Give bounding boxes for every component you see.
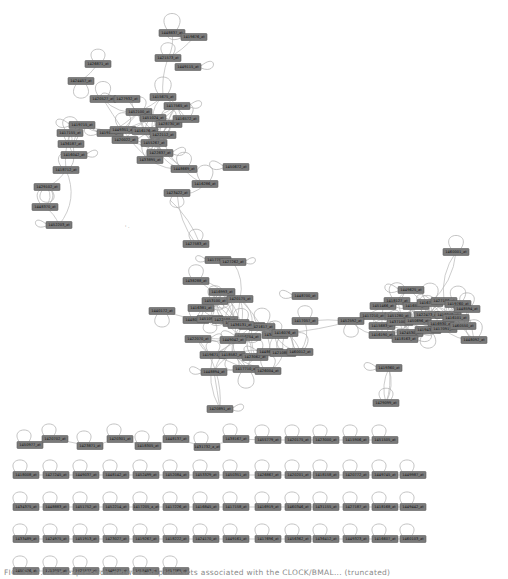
self-loop-edge bbox=[313, 492, 327, 504]
node-label: 1416101_at bbox=[445, 316, 467, 320]
self-loop-edge bbox=[313, 524, 327, 536]
edge bbox=[170, 200, 200, 244]
node-label: 1419360_at bbox=[378, 366, 400, 370]
self-loop-edge bbox=[372, 460, 386, 472]
pair-row-2-node: 1420772_at bbox=[343, 472, 369, 479]
pair-row-2-node: 1453329_at bbox=[193, 472, 219, 479]
node-label: 1423062_at bbox=[244, 355, 266, 359]
pair-row-2-node: 1450351_at bbox=[223, 472, 249, 479]
node-label: 1451024_at bbox=[142, 116, 164, 120]
self-loop-edge bbox=[223, 460, 237, 472]
node-label: 1420301_at bbox=[109, 437, 131, 441]
top-cluster-node: 1422112_at bbox=[150, 132, 176, 139]
top-cluster-node: 1436187_at bbox=[58, 141, 84, 148]
top-cluster-node: 1419676_at bbox=[181, 34, 207, 41]
right-cluster-node: 1451466_at bbox=[370, 303, 396, 310]
right-cluster-node: 1419360_at bbox=[376, 365, 402, 372]
node-label: 1450696_at bbox=[407, 319, 429, 323]
self-loop-edge bbox=[285, 460, 299, 472]
middle-cluster-node: 1448700_at bbox=[292, 293, 318, 300]
pair-row-4-node: 1418222_at bbox=[163, 536, 189, 543]
node-label: 1421573_at bbox=[157, 56, 179, 60]
node-label: 1420022_at bbox=[114, 138, 136, 142]
node-label: 1416286_at bbox=[194, 182, 216, 186]
right-cluster-node: 1448594_at bbox=[454, 306, 480, 313]
self-loop-edge bbox=[13, 492, 27, 504]
self-loop-edge bbox=[73, 556, 87, 568]
middle-cluster-node: 1416076_at bbox=[272, 330, 298, 337]
self-loop-edge bbox=[372, 524, 386, 536]
pair-row-4-node: 1433489_at bbox=[13, 536, 39, 543]
pair-row-3-node: 1417205_a_at bbox=[133, 504, 159, 511]
node-label: 1451505_at bbox=[374, 438, 396, 442]
self-loop-edge bbox=[43, 556, 57, 568]
self-loop-edge bbox=[87, 150, 98, 157]
pair-row-4-node: 1423027_at bbox=[103, 536, 129, 543]
node-label: 1422112_at bbox=[152, 133, 174, 137]
middle-cluster-node: 1460012_at bbox=[287, 349, 313, 356]
self-loop-edge bbox=[298, 306, 312, 318]
pair-row-1-node: 1450977_at bbox=[17, 442, 43, 449]
node-label: 1460346_at bbox=[287, 505, 309, 509]
right-cluster-node: 1449625_at bbox=[398, 287, 424, 294]
self-loop-edge bbox=[210, 161, 223, 170]
node-label: 1416919_at bbox=[257, 505, 279, 509]
node-label: 1420175_at bbox=[287, 438, 309, 442]
self-loop-edge bbox=[196, 256, 205, 262]
node-label: 1422837_at bbox=[149, 151, 171, 155]
top-cluster-node: 1417155_at bbox=[57, 130, 83, 137]
edge bbox=[103, 99, 123, 130]
right-cluster-node: 1416190_at bbox=[369, 332, 395, 339]
middle-cluster-node: 1420175_at bbox=[227, 296, 253, 303]
top-cluster-node: 1415675_at bbox=[150, 94, 176, 101]
self-loop-edge bbox=[190, 101, 202, 109]
self-loop-edge bbox=[379, 388, 393, 399]
node-label: 1436187_at bbox=[60, 142, 82, 146]
node-label: 1416993_at bbox=[211, 290, 233, 294]
node-label: 1451913_at bbox=[75, 537, 97, 541]
self-loop-edge bbox=[190, 367, 201, 375]
self-loop-edge bbox=[400, 492, 414, 504]
self-loop-edge bbox=[17, 430, 31, 442]
node-label: 1452203_at bbox=[48, 223, 70, 227]
right-cluster-node: 1460001_at bbox=[443, 249, 469, 256]
pair-row-1-node: 1455779_at bbox=[255, 437, 281, 444]
node-label: 1460001_at bbox=[445, 250, 467, 254]
node-label: 1416845_at bbox=[195, 505, 217, 509]
self-loop-edge bbox=[343, 524, 357, 536]
node-label: 1418163_at bbox=[394, 337, 416, 341]
node-label: 1415906_at bbox=[345, 438, 367, 442]
node-label: 1417158_at bbox=[225, 505, 247, 509]
top-cluster-node: 1421573_at bbox=[155, 55, 181, 62]
pair-row-4-node: 1451913_at bbox=[73, 536, 99, 543]
node-label: 1449351_at bbox=[112, 128, 134, 132]
pair-row-2-node: 1427245_at bbox=[43, 472, 69, 479]
self-loop-edge bbox=[42, 424, 56, 436]
pair-row-3-node: 1449442_at bbox=[400, 504, 426, 511]
middle-cluster-node: 1427262_at bbox=[220, 259, 246, 266]
node-label: 1419676_at bbox=[183, 35, 205, 39]
self-loop-edge bbox=[73, 460, 87, 472]
pair-row-1-node: 1448137_at bbox=[163, 436, 189, 443]
middle-cluster-node: 1422070_at bbox=[185, 336, 211, 343]
pair-row-3-node: 1448883_at bbox=[43, 504, 69, 511]
node-label: 1416190_at bbox=[371, 333, 393, 337]
top-cluster-node: 1452203_at bbox=[46, 222, 72, 229]
self-loop-edge bbox=[246, 258, 255, 264]
self-loop-edge bbox=[313, 425, 327, 437]
node-label: 1455779_at bbox=[257, 438, 279, 442]
middle-cluster-node: 1440172_at bbox=[149, 308, 175, 315]
self-loop-edge bbox=[133, 556, 147, 568]
self-loop-edge bbox=[103, 556, 117, 568]
self-loop-edge bbox=[13, 556, 27, 568]
pair-row-4-node: 1449161_at bbox=[223, 536, 249, 543]
pair-row-3-node: 1418168_at bbox=[372, 504, 398, 511]
self-loop-edge bbox=[223, 524, 237, 536]
middle-cluster-node: 1416381_at bbox=[188, 305, 214, 312]
node-label: 1420527_at bbox=[92, 97, 114, 101]
self-loop-edge bbox=[400, 524, 414, 536]
node-label: 1420201_at bbox=[287, 473, 309, 477]
self-loop-edge bbox=[13, 524, 27, 536]
node-label: 1449625_at bbox=[400, 288, 422, 292]
node-label: 1426867_at bbox=[257, 473, 279, 477]
